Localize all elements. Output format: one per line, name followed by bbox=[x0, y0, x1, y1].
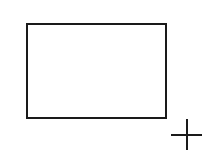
rectangle-shape[interactable] bbox=[26, 23, 167, 119]
crosshair-vertical-line bbox=[186, 119, 188, 150]
drawing-canvas[interactable] bbox=[0, 0, 210, 153]
crosshair-cursor-icon bbox=[171, 119, 202, 150]
